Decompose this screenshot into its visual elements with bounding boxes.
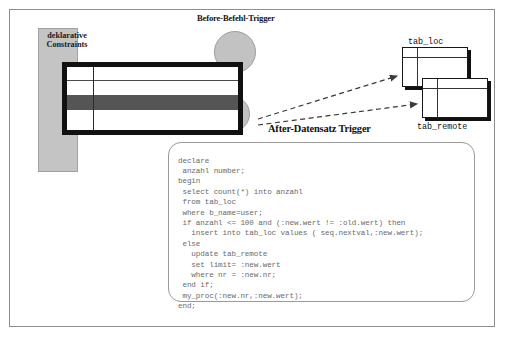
tab-loc-header-rule <box>403 57 467 58</box>
main-table-column-divider <box>93 67 94 130</box>
tab-remote-header-rule <box>423 88 487 89</box>
after-record-trigger-label: After-Datensatz Trigger <box>268 123 371 134</box>
declarative-constraints-label: deklarative Constraints <box>34 31 100 50</box>
before-command-trigger-label: Before-Befehl-Trigger <box>197 13 275 23</box>
main-table-body <box>67 67 238 130</box>
tab-remote-graphic <box>422 78 488 118</box>
tab-loc-label: tab_loc <box>408 37 443 47</box>
tab-remote-column-divider <box>437 79 438 117</box>
diagram-canvas: deklarative Constraints Before-Befehl-Tr… <box>0 0 505 337</box>
tab-loc-column-divider <box>417 48 418 86</box>
tab-remote-label: tab_remote <box>417 122 467 132</box>
main-table-graphic <box>62 62 243 135</box>
trigger-code-text: declare anzahl number; begin select coun… <box>178 156 423 312</box>
